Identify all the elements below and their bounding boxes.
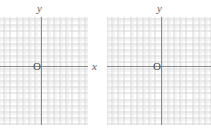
left-grid-paper [0, 17, 88, 125]
left-y-axis-label: y [37, 3, 42, 14]
coordinate-grid-figure: y x O y O [0, 0, 211, 133]
left-y-axis [41, 17, 42, 125]
left-coordinate-panel [0, 17, 88, 125]
left-x-axis [0, 66, 88, 67]
right-y-axis [161, 17, 162, 125]
left-x-axis-label: x [92, 61, 97, 72]
left-origin-label: O [33, 61, 41, 72]
right-origin-label: O [153, 61, 161, 72]
right-y-axis-label: y [157, 3, 162, 14]
